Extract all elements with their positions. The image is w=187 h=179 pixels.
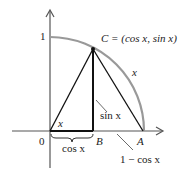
unit-arc bbox=[50, 37, 144, 131]
label-one: 1 bbox=[40, 31, 46, 42]
label-point-a: A bbox=[137, 136, 144, 147]
label-sin-x: sin x bbox=[100, 110, 121, 121]
label-arc-x: x bbox=[132, 67, 137, 78]
label-point-c: C = (cos x, sin x) bbox=[101, 33, 177, 44]
label-one-minus-cos: 1 − cos x bbox=[120, 154, 160, 165]
label-origin: 0 bbox=[39, 136, 45, 147]
label-point-b: B bbox=[96, 136, 103, 147]
one-minus-cos-pointer bbox=[117, 134, 133, 150]
point-c bbox=[91, 47, 95, 51]
radius-oc bbox=[50, 49, 93, 131]
label-cos-x: cos x bbox=[62, 143, 85, 154]
label-angle-x: x bbox=[58, 118, 63, 129]
cos-brace bbox=[51, 134, 93, 142]
